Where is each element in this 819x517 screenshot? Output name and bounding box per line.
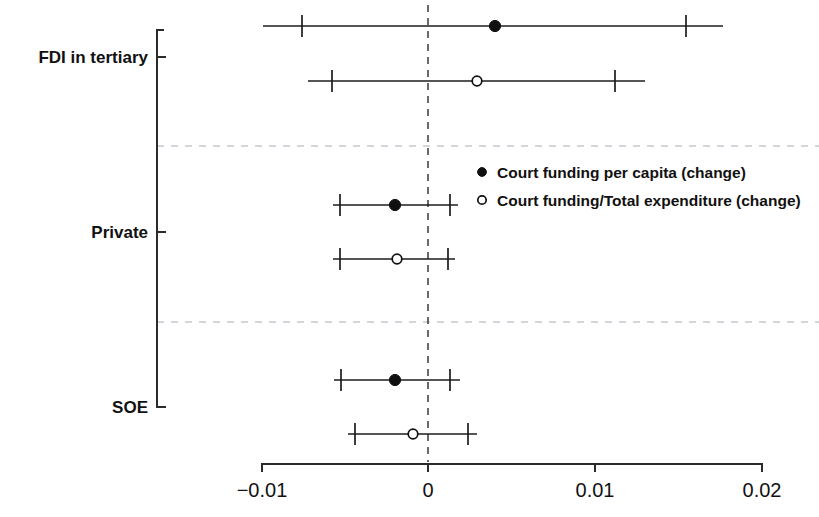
legend-label-per-capita: Court funding per capita (change): [497, 164, 746, 181]
x-tick-label-002: 0.02: [743, 479, 782, 501]
interval-row-soe-share: [348, 423, 477, 445]
x-tick-label-neg001: −0.01: [237, 479, 288, 501]
legend-item-per-capita[interactable]: Court funding per capita (change): [478, 164, 746, 181]
category-label-fdi: FDI in tertiary: [38, 48, 148, 67]
legend: Court funding per capita (change) Court …: [478, 164, 801, 209]
x-tick-label-zero: 0: [422, 479, 433, 501]
estimate-point-open: [472, 76, 482, 86]
category-label-private: Private: [91, 223, 148, 242]
estimate-point-filled: [389, 199, 400, 210]
interval-row-private-share: [333, 248, 455, 270]
estimate-point-filled: [489, 20, 500, 31]
y-axis: [157, 30, 166, 407]
legend-item-share[interactable]: Court funding/Total expenditure (change): [478, 192, 801, 209]
interval-row-fdi-share: [308, 70, 645, 92]
estimate-point-open: [408, 429, 418, 439]
estimate-point-filled: [389, 374, 400, 385]
category-label-soe: SOE: [112, 398, 148, 417]
legend-label-share: Court funding/Total expenditure (change): [497, 192, 801, 209]
x-axis: [262, 464, 762, 472]
y-axis-spine: [157, 30, 164, 407]
estimate-point-open: [392, 254, 402, 264]
x-tick-label-001: 0.01: [576, 479, 615, 501]
forest-plot-figure: FDI in tertiary Private SOE: [0, 0, 819, 517]
plot-canvas: FDI in tertiary Private SOE: [0, 0, 819, 517]
interval-row-soe-per-capita: [334, 369, 460, 391]
interval-row-fdi-per-capita: [263, 15, 723, 37]
legend-filled-circle-icon: [478, 168, 487, 177]
x-axis-spine: [262, 464, 762, 472]
legend-open-circle-icon: [478, 196, 486, 204]
interval-row-private-per-capita: [333, 194, 458, 216]
